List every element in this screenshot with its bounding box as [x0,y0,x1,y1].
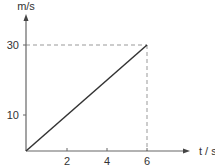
y-axis-arrow-icon [24,14,29,21]
xtick-label-6: 6 [144,155,150,167]
xtick-label-4: 4 [104,155,110,167]
ytick-label-30: 30 [7,39,19,51]
velocity-time-chart: m/s t / s 2 4 6 10 30 [0,0,215,168]
x-axis-label: t / s [199,145,215,157]
x-axis-arrow-icon [183,149,190,154]
y-axis-label: m/s [17,0,35,12]
data-line [26,45,147,151]
xtick-label-2: 2 [64,155,70,167]
ytick-label-10: 10 [7,109,19,121]
